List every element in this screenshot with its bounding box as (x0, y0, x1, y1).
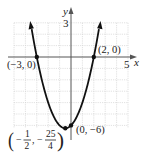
y-axis-arrow-icon (69, 7, 74, 14)
vertex-close-paren: ) (57, 128, 64, 152)
x-tick-5: 5 (124, 58, 130, 70)
point-y-intercept (69, 123, 73, 127)
y-tick-3: 3 (63, 17, 69, 29)
vertex-open-paren: ( (8, 129, 14, 153)
curve-arrow-left-icon (29, 21, 34, 29)
x-axis-label: x (133, 56, 139, 68)
graph-canvas: y 3 5 x (−3, 0) (2, 0) (0, −6) ( − 1 2 ,… (0, 0, 149, 165)
point-right-intercept (92, 55, 96, 59)
vertex-den-2: 4 (48, 141, 53, 151)
vertex-num-2: 25 (46, 129, 56, 139)
vertex-num-1: 1 (25, 129, 30, 139)
curve-arrow-right-icon (97, 21, 102, 29)
vertex-den-1: 2 (25, 141, 30, 151)
vertex-minus-2: − (37, 134, 43, 145)
label-y-intercept: (0, −6) (76, 124, 105, 136)
label-right-intercept: (2, 0) (98, 44, 121, 56)
parabola-curve-accurate (32, 29, 99, 128)
vertex-minus-1: − (16, 134, 22, 145)
vertex-comma: , (32, 134, 35, 145)
y-axis-label: y (62, 5, 68, 17)
label-vertex: ( − 1 2 , − 25 4 ) (8, 128, 64, 152)
label-left-intercept: (−3, 0) (7, 59, 36, 71)
axes (8, 7, 137, 140)
